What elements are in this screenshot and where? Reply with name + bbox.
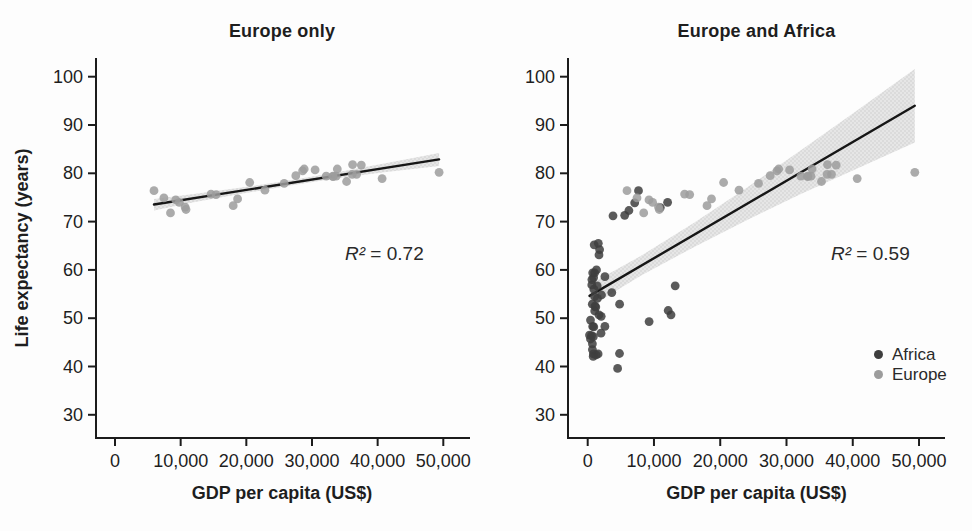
x-tick-label: 30,000 xyxy=(759,451,814,471)
x-tick-label: 10,000 xyxy=(153,451,208,471)
scatter-point-africa xyxy=(588,345,597,354)
y-tick-label: 80 xyxy=(63,163,83,183)
scatter-point-europe xyxy=(311,166,320,175)
scatter-point-africa xyxy=(594,239,603,248)
scatter-point-europe xyxy=(832,161,841,170)
scatter-point-europe xyxy=(639,209,648,218)
x-axis-label: GDP per capita (US$) xyxy=(96,483,468,504)
scatter-point-europe xyxy=(342,177,351,186)
scatter-point-europe xyxy=(633,194,642,203)
y-tick-label: 60 xyxy=(535,260,555,280)
panel-europe-only: Europe only Life expectancy (years) 3040… xyxy=(0,0,486,531)
x-tick-label: 10,000 xyxy=(626,451,681,471)
scatter-point-africa xyxy=(595,251,604,260)
scatter-point-europe xyxy=(357,161,366,170)
scatter-point-africa xyxy=(615,300,624,309)
y-tick-label: 80 xyxy=(535,163,555,183)
scatter-point-europe xyxy=(182,205,191,214)
y-tick-label: 90 xyxy=(535,115,555,135)
legend-item-europe: Europe xyxy=(874,365,947,384)
x-tick-label: 20,000 xyxy=(693,451,748,471)
y-tick-label: 90 xyxy=(63,115,83,135)
r-squared-symbol: R² xyxy=(345,243,365,264)
scatter-point-europe xyxy=(212,190,221,199)
scatter-point-africa xyxy=(671,281,680,290)
scatter-point-europe xyxy=(817,177,826,186)
figure: Europe only Life expectancy (years) 3040… xyxy=(0,0,972,531)
regression-line xyxy=(154,159,439,204)
y-tick-label: 40 xyxy=(63,357,83,377)
europe-dot-icon xyxy=(874,370,883,379)
scatter-point-europe xyxy=(827,170,836,179)
scatter-point-africa xyxy=(663,198,672,207)
scatter-point-europe xyxy=(785,166,794,175)
r-squared-symbol: R² xyxy=(831,243,851,264)
y-tick-label: 30 xyxy=(63,405,83,425)
scatter-point-europe xyxy=(685,190,694,199)
scatter-plot-europe-and-africa: 30405060708090100010,00020,00030,00040,0… xyxy=(486,0,972,531)
scatter-point-europe xyxy=(823,160,832,169)
r-squared-value: = 0.72 xyxy=(365,243,424,264)
scatter-point-africa xyxy=(601,272,610,281)
scatter-point-africa xyxy=(590,307,599,316)
scatter-point-africa xyxy=(589,273,598,282)
scatter-point-europe xyxy=(150,186,159,195)
scatter-point-africa xyxy=(620,211,629,220)
r-squared-value: = 0.59 xyxy=(851,243,910,264)
scatter-point-africa xyxy=(589,332,598,341)
x-tick-label: 0 xyxy=(110,451,120,471)
legend: Africa Europe xyxy=(874,345,947,384)
r-squared-annotation: R² = 0.59 xyxy=(831,243,910,265)
y-tick-label: 100 xyxy=(53,67,83,87)
scatter-point-europe xyxy=(623,186,632,195)
scatter-point-europe xyxy=(280,179,289,188)
legend-label: Europe xyxy=(892,365,947,385)
y-tick-label: 40 xyxy=(535,357,555,377)
africa-dot-icon xyxy=(874,350,883,359)
scatter-point-africa xyxy=(590,292,599,301)
y-tick-label: 60 xyxy=(63,260,83,280)
scatter-point-europe xyxy=(160,194,169,203)
x-tick-label: 50,000 xyxy=(416,451,471,471)
scatter-point-europe xyxy=(352,170,361,179)
panel-europe-and-africa: Europe and Africa 30405060708090100010,0… xyxy=(486,0,972,531)
scatter-point-africa xyxy=(589,323,598,332)
scatter-point-europe xyxy=(803,172,812,181)
scatter-point-africa xyxy=(597,329,606,338)
y-tick-label: 50 xyxy=(63,308,83,328)
scatter-point-africa xyxy=(645,317,654,326)
scatter-point-africa xyxy=(587,281,596,290)
scatter-point-europe xyxy=(853,174,862,183)
scatter-point-europe xyxy=(300,165,309,174)
y-tick-label: 100 xyxy=(525,67,555,87)
y-tick-label: 70 xyxy=(63,212,83,232)
x-tick-label: 30,000 xyxy=(284,451,339,471)
scatter-point-europe xyxy=(378,174,387,183)
scatter-point-europe xyxy=(435,168,444,177)
scatter-point-europe xyxy=(329,172,338,181)
scatter-point-africa xyxy=(607,288,616,297)
scatter-point-europe xyxy=(175,198,184,207)
scatter-point-europe xyxy=(348,160,357,169)
x-tick-label: 20,000 xyxy=(219,451,274,471)
scatter-point-africa xyxy=(609,211,618,220)
scatter-point-europe xyxy=(754,179,763,188)
scatter-point-europe xyxy=(261,186,270,195)
x-tick-label: 40,000 xyxy=(350,451,405,471)
x-tick-label: 0 xyxy=(583,451,593,471)
y-tick-label: 50 xyxy=(535,308,555,328)
legend-label: Africa xyxy=(892,345,935,365)
x-tick-label: 40,000 xyxy=(825,451,880,471)
legend-item-africa: Africa xyxy=(874,345,947,364)
scatter-point-europe xyxy=(735,186,744,195)
scatter-point-europe xyxy=(910,168,919,177)
scatter-point-europe xyxy=(233,195,242,204)
x-axis-label: GDP per capita (US$) xyxy=(568,483,945,504)
scatter-point-europe xyxy=(707,195,716,204)
scatter-point-africa xyxy=(615,349,624,358)
scatter-point-africa xyxy=(664,306,673,315)
scatter-point-europe xyxy=(655,205,664,214)
scatter-point-europe xyxy=(245,178,254,187)
r-squared-annotation: R² = 0.72 xyxy=(345,243,424,265)
y-tick-label: 70 xyxy=(535,212,555,232)
